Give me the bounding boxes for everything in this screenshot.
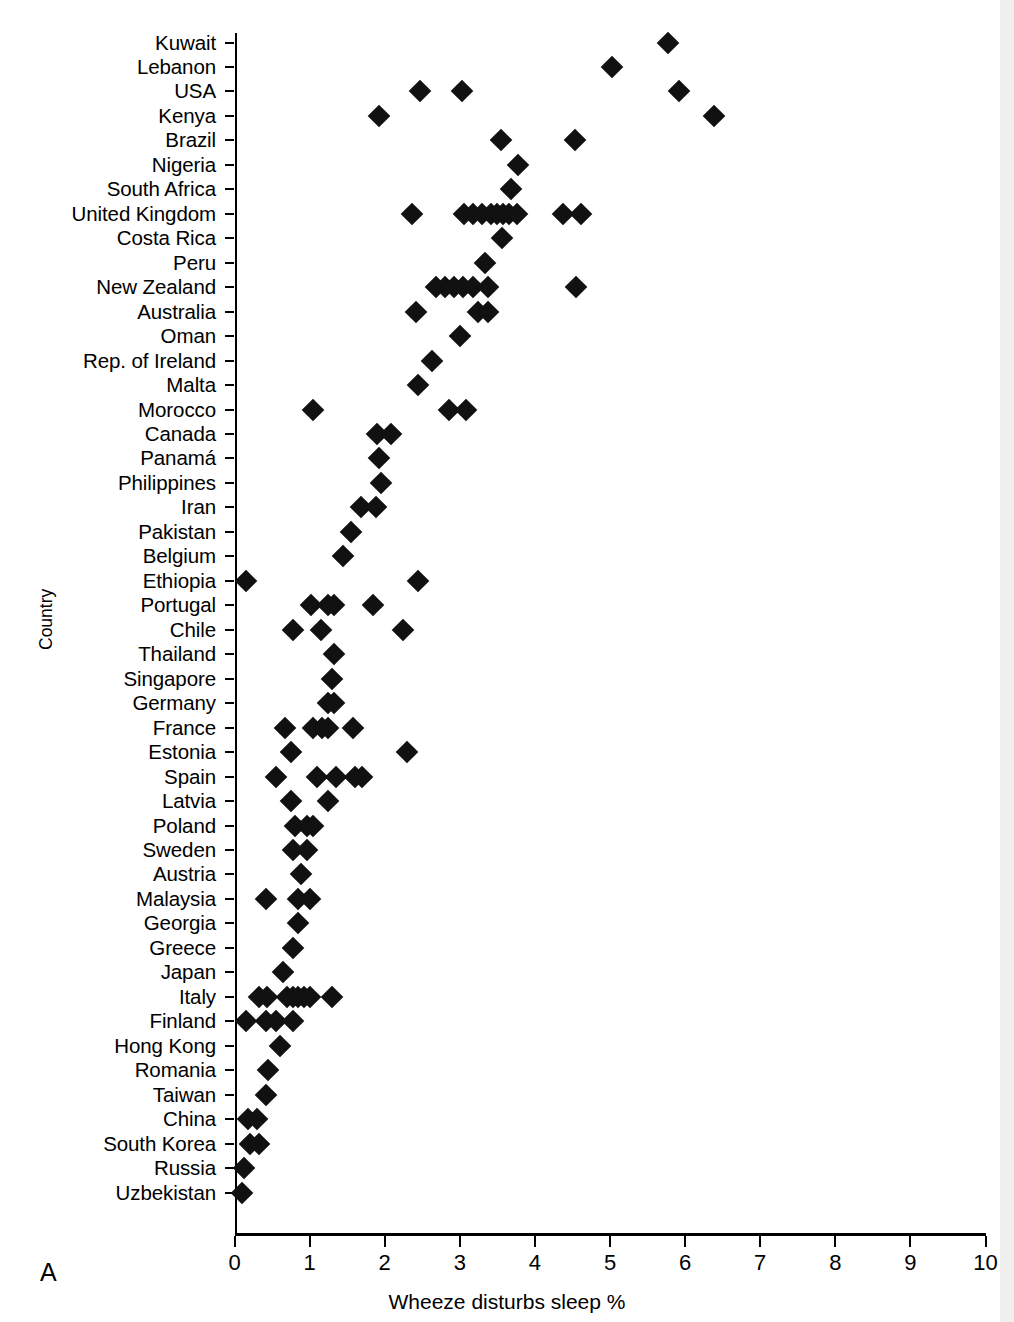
data-point xyxy=(321,986,344,1009)
y-axis-tick xyxy=(225,971,234,973)
data-point xyxy=(234,1010,257,1033)
y-axis-label: Austria xyxy=(153,864,216,885)
y-axis-label: Germany xyxy=(132,693,216,714)
y-axis-tick xyxy=(225,42,234,44)
y-axis-label: Thailand xyxy=(138,644,216,665)
y-axis-label: Peru xyxy=(173,252,216,273)
x-axis-tick-label: 5 xyxy=(604,1252,616,1274)
x-axis-tick-label: 4 xyxy=(529,1252,541,1274)
data-point xyxy=(364,496,387,519)
data-point xyxy=(302,398,325,421)
y-axis-tick xyxy=(225,139,234,141)
y-axis-tick xyxy=(225,433,234,435)
y-axis-tick xyxy=(225,800,234,802)
data-point xyxy=(368,105,391,128)
y-axis-label: Canada xyxy=(145,424,216,445)
data-point xyxy=(565,276,588,299)
y-axis-tick xyxy=(225,727,234,729)
x-axis-tick-label: 2 xyxy=(379,1252,391,1274)
x-axis-tick xyxy=(684,1236,686,1247)
y-axis-tick xyxy=(225,580,234,582)
y-axis-tick xyxy=(225,751,234,753)
y-axis-label: Spain xyxy=(164,766,216,787)
y-axis-label: Sweden xyxy=(143,840,216,861)
data-point xyxy=(317,790,340,813)
data-point xyxy=(656,31,679,54)
y-axis-tick xyxy=(225,237,234,239)
data-point xyxy=(407,570,430,593)
y-axis-tick xyxy=(225,604,234,606)
data-point xyxy=(279,741,302,764)
y-axis-tick xyxy=(225,653,234,655)
y-axis-tick xyxy=(225,262,234,264)
y-axis-tick xyxy=(225,1094,234,1096)
x-axis-title: Wheeze disturbs sleep % xyxy=(0,1290,1014,1314)
y-axis-label: Uzbekistan xyxy=(116,1182,216,1203)
y-axis-tick xyxy=(225,66,234,68)
y-axis-label: Japan xyxy=(161,962,216,983)
y-axis-label: South Africa xyxy=(107,179,216,200)
y-axis-label: Georgia xyxy=(144,913,216,934)
y-axis-label: South Korea xyxy=(103,1133,216,1154)
scatter-plot: KuwaitLebanonUSAKenyaBrazilNigeriaSouth … xyxy=(0,0,1014,1322)
data-point xyxy=(448,325,471,348)
x-axis-tick-label: 1 xyxy=(303,1252,315,1274)
data-point xyxy=(392,618,415,641)
y-axis-label: New Zealand xyxy=(96,277,216,298)
y-axis-label: Belgium xyxy=(143,546,216,567)
data-point xyxy=(702,105,725,128)
x-axis-tick xyxy=(834,1236,836,1247)
y-axis-tick xyxy=(225,506,234,508)
y-axis-labels: KuwaitLebanonUSAKenyaBrazilNigeriaSouth … xyxy=(0,0,228,1322)
data-point xyxy=(477,276,500,299)
y-axis-tick xyxy=(225,678,234,680)
y-axis-label: Australia xyxy=(137,301,216,322)
y-axis-label: Brazil xyxy=(165,130,216,151)
y-axis-label: Pakistan xyxy=(138,522,216,543)
y-axis-label: USA xyxy=(174,81,216,102)
data-point xyxy=(454,398,477,421)
panel-letter: A xyxy=(40,1260,57,1285)
y-axis-label: Costa Rica xyxy=(117,228,216,249)
data-point xyxy=(409,80,432,103)
data-point xyxy=(273,716,296,739)
data-point xyxy=(473,251,496,274)
data-point xyxy=(668,80,691,103)
y-axis-label: Oman xyxy=(161,326,216,347)
y-axis-label: Philippines xyxy=(118,473,216,494)
x-axis-tick xyxy=(459,1236,461,1247)
data-point xyxy=(407,374,430,397)
y-axis-title: Country xyxy=(36,589,57,650)
y-axis-tick xyxy=(225,457,234,459)
y-axis-tick xyxy=(225,311,234,313)
x-axis-tick-label: 3 xyxy=(454,1252,466,1274)
data-point xyxy=(255,1083,278,1106)
figure-panel-a: KuwaitLebanonUSAKenyaBrazilNigeriaSouth … xyxy=(0,0,1014,1322)
data-point xyxy=(268,1034,291,1057)
data-point xyxy=(272,961,295,984)
y-axis-label: Poland xyxy=(153,815,216,836)
data-point xyxy=(451,80,474,103)
x-axis-tick-label: 8 xyxy=(829,1252,841,1274)
data-point xyxy=(500,178,523,201)
data-point xyxy=(310,618,333,641)
x-axis-tick xyxy=(234,1236,236,1247)
y-axis-label: Singapore xyxy=(123,668,216,689)
y-axis-label: Lebanon xyxy=(137,57,216,78)
data-point xyxy=(282,937,305,960)
y-axis-label: Taiwan xyxy=(153,1084,216,1105)
x-axis-tick xyxy=(759,1236,761,1247)
y-axis-label: Chile xyxy=(170,620,216,641)
y-axis-label: Panamá xyxy=(140,448,216,469)
data-point xyxy=(257,1059,280,1082)
data-point xyxy=(282,618,305,641)
y-axis-label: Latvia xyxy=(162,791,216,812)
data-point xyxy=(362,594,385,617)
data-point xyxy=(370,472,393,495)
y-axis-tick xyxy=(225,996,234,998)
y-axis-tick xyxy=(225,849,234,851)
x-axis-tick-label: 9 xyxy=(904,1252,916,1274)
y-axis-label: Italy xyxy=(179,987,216,1008)
y-axis-label: Malaysia xyxy=(136,889,216,910)
y-axis-tick xyxy=(225,1118,234,1120)
